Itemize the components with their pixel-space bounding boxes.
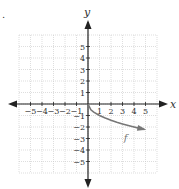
y-tick-label: 5 xyxy=(80,43,85,52)
y-tick-label: −3 xyxy=(73,135,85,144)
x-axis-left-arrow-icon xyxy=(8,101,17,108)
chart: . −5−4−3−2−112345−5−4−3−2−112345 f x y xyxy=(0,0,179,189)
y-axis-down-arrow-icon xyxy=(85,179,92,188)
y-axis-up-arrow-icon xyxy=(85,20,92,29)
problem-marker: . xyxy=(2,9,5,20)
y-tick-label: 4 xyxy=(80,54,85,63)
y-tick-label: −2 xyxy=(73,123,85,132)
x-tick-label: 4 xyxy=(131,107,136,116)
x-tick-label: 2 xyxy=(108,107,113,116)
y-tick-label: −4 xyxy=(73,146,85,155)
x-tick-label: −5 xyxy=(25,107,37,116)
x-tick-label: −2 xyxy=(59,107,71,116)
y-tick-label: −1 xyxy=(73,112,85,121)
x-axis-right-arrow-icon xyxy=(159,101,168,108)
curve-arrow-icon xyxy=(137,125,146,131)
x-tick-label: −4 xyxy=(36,107,48,116)
y-tick-label: −5 xyxy=(73,158,85,167)
y-axis-label: y xyxy=(83,6,91,19)
y-tick-label: 1 xyxy=(80,89,85,98)
x-axis-label: x xyxy=(170,98,177,111)
x-tick-label: 5 xyxy=(143,107,148,116)
y-tick-label: 3 xyxy=(80,66,85,75)
y-tick-label: 2 xyxy=(80,77,85,86)
x-tick-label: 3 xyxy=(120,107,125,116)
x-tick-label: −3 xyxy=(48,107,60,116)
function-label: f xyxy=(123,132,130,143)
